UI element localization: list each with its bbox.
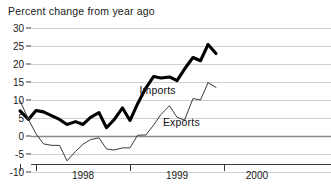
y-tick-mark	[26, 64, 31, 65]
x-tick-label: 1999	[166, 170, 188, 181]
series-tail-imports	[208, 45, 216, 54]
y-tick-mark	[26, 118, 31, 119]
y-tick-mark	[26, 136, 31, 137]
y-tick-label: -5	[2, 149, 24, 160]
series-label-exports: Exports	[163, 116, 200, 128]
y-tick-mark	[26, 172, 31, 173]
y-axis: 302520151050-5-10	[0, 0, 24, 190]
percent-change-line-chart: Percent change from year ago 30252015105…	[0, 0, 331, 190]
y-tick-label: 5	[2, 113, 24, 124]
series-lines	[20, 45, 216, 161]
y-tick-mark	[26, 46, 31, 47]
x-tick-mark	[224, 164, 225, 171]
x-tick-mark	[130, 164, 131, 171]
x-tick-label: 1998	[72, 170, 94, 181]
y-tick-label: 30	[2, 23, 24, 34]
y-tick-mark	[26, 82, 31, 83]
y-tick-label: 15	[2, 77, 24, 88]
y-tick-label: 10	[2, 95, 24, 106]
y-tick-mark	[26, 100, 31, 101]
y-tick-mark	[26, 154, 31, 155]
x-axis-line	[31, 164, 331, 165]
x-tick-mark	[36, 164, 37, 171]
series-tail-exports	[208, 83, 216, 88]
y-tick-label: 0	[2, 131, 24, 142]
y-tick-label: 20	[2, 59, 24, 70]
y-tick-mark	[26, 28, 31, 29]
x-tick-label: 2000	[246, 170, 268, 181]
series-label-imports: Imports	[139, 84, 175, 96]
x-tick-mark	[20, 164, 21, 171]
y-tick-label: 25	[2, 41, 24, 52]
